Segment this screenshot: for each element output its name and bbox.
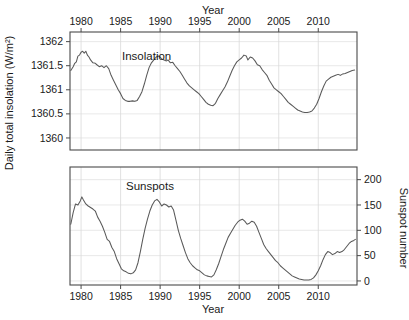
y-tick-label: 200 <box>364 173 382 185</box>
y-tick-label: 1360 <box>40 132 64 144</box>
bottom-x-axis-title: Year <box>202 303 225 315</box>
x-tick-label: 2010 <box>307 290 331 302</box>
x-tick-label: 2005 <box>267 15 291 27</box>
x-tick-label: 1990 <box>148 15 172 27</box>
solar-insolation-sunspot-figure: Year Year Daily total insolation (W/m²) … <box>0 0 409 320</box>
x-tick-label: 1995 <box>188 290 212 302</box>
x-tick-label: 2005 <box>267 290 291 302</box>
x-tick-label: 1985 <box>109 15 133 27</box>
left-y-axis-title: Daily total insolation (W/m²) <box>3 36 15 170</box>
sunspots-series-label: Sunspots <box>126 180 174 192</box>
y-tick-label: 1362 <box>40 35 64 47</box>
y-tick-label: 1361.5 <box>31 59 63 71</box>
x-tick-label: 1985 <box>109 290 133 302</box>
y-tick-label: 1361 <box>40 83 64 95</box>
y-tick-label: 100 <box>364 224 382 236</box>
x-tick-label: 2000 <box>228 290 252 302</box>
insolation-series-label: Insolation <box>122 50 171 62</box>
x-tick-label: 1995 <box>188 15 212 27</box>
y-tick-label: 1360.5 <box>31 107 63 119</box>
y-tick-label: 150 <box>364 199 382 211</box>
x-tick-label: 2000 <box>228 15 252 27</box>
x-tick-label: 2010 <box>307 15 331 27</box>
figure-background <box>0 0 409 320</box>
right-y-axis-title: Sunspot number <box>398 188 409 269</box>
y-tick-label: 0 <box>364 275 370 287</box>
x-tick-label: 1980 <box>69 15 93 27</box>
x-tick-label: 1980 <box>69 290 93 302</box>
x-tick-label: 1990 <box>148 290 172 302</box>
y-tick-label: 50 <box>364 249 376 261</box>
chart-canvas: Year Year Daily total insolation (W/m²) … <box>0 0 409 320</box>
